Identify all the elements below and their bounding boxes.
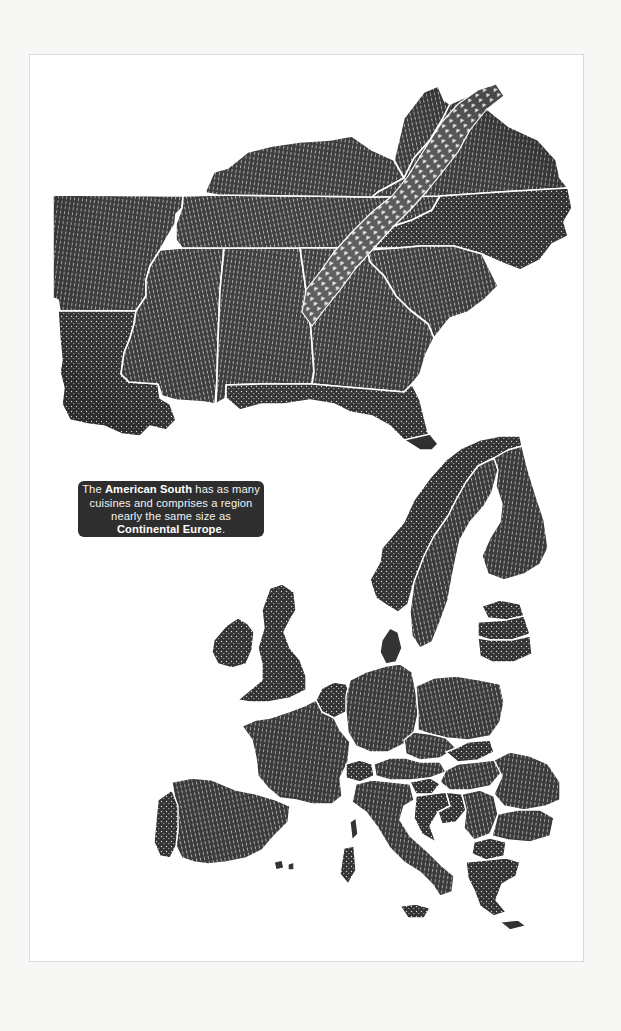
island-sicily [400, 904, 430, 918]
country-hungary [440, 760, 502, 790]
callout-text: The American South has as many cuisines … [82, 483, 260, 537]
country-lithuania [478, 636, 532, 662]
country-romania [494, 752, 560, 810]
country-greece [466, 858, 520, 916]
country-bulgaria [492, 810, 554, 842]
country-latvia [478, 616, 530, 640]
country-denmark [380, 628, 402, 664]
callout-box: The American South has as many cuisines … [78, 481, 264, 537]
country-austria [374, 758, 446, 780]
highlight-continental-europe: Continental Europe [117, 523, 222, 535]
country-slovenia [410, 778, 440, 794]
country-slovakia [446, 740, 494, 762]
country-poland [416, 676, 504, 740]
island-corsica [350, 818, 358, 840]
american-south-map [50, 84, 575, 454]
highlight-american-south: American South [105, 483, 192, 495]
island-crete [500, 920, 526, 930]
country-portugal [154, 790, 178, 858]
country-switzerland [346, 760, 374, 782]
island-sardinia [340, 846, 356, 884]
island-balearic [274, 860, 284, 870]
island-balearic-2 [288, 862, 294, 870]
country-macedonia [472, 838, 506, 860]
country-ireland [212, 618, 254, 668]
